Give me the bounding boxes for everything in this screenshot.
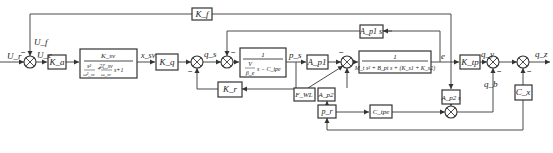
flow-gain-block: K_q <box>156 54 178 70</box>
svg-text:U_e: U_e <box>37 50 52 60</box>
svg-text:s²: s² <box>87 63 91 69</box>
summing-junction-1 <box>24 56 36 68</box>
svg-text:K_q: K_q <box>158 57 175 67</box>
summing-junction-2 <box>191 56 203 68</box>
svg-text:−: − <box>497 67 502 76</box>
svg-text:−: − <box>188 67 193 76</box>
pressure-r-block: p_r <box>318 105 336 118</box>
svg-text:−: − <box>21 48 26 57</box>
svg-text:K_sv: K_sv <box>100 52 116 60</box>
svg-text:−: − <box>527 67 532 76</box>
svg-text:A_p1 s: A_p1 s <box>359 27 382 36</box>
svg-text:e: e <box>441 51 445 61</box>
area-a-s-block: A_p1 s <box>359 25 383 38</box>
comp-block: C_x <box>515 85 532 100</box>
svg-text:ω²_sv: ω²_sv <box>83 72 95 77</box>
summing-junction-3 <box>221 56 233 68</box>
load-force-block: F_WL <box>294 88 315 101</box>
svg-text:C_x: C_x <box>516 87 531 97</box>
svg-text:F_WL: F_WL <box>294 91 313 99</box>
svg-text:A_p1: A_p1 <box>307 57 327 67</box>
pressure-feedback-block: K_r <box>218 82 242 97</box>
svg-text:p_r: p_r <box>320 107 333 116</box>
chamber-block: 1 V β_e s − C_tpe <box>240 48 286 77</box>
area-b-block: A_p2 <box>318 88 335 101</box>
svg-text:A_p2 s: A_p2 s <box>440 94 461 102</box>
svg-text:A_p2: A_p2 <box>318 91 334 99</box>
tp-gain-block: K_tp <box>460 55 480 69</box>
svg-text:1: 1 <box>393 53 397 61</box>
control-block-diagram: − − − − − − K_a K_sv s² ω²_sv + 2ζ_sv ω_… <box>0 0 553 153</box>
svg-text:x_sv: x_sv <box>140 51 156 60</box>
svg-text:U_r: U_r <box>7 51 22 61</box>
svg-text:K_tp: K_tp <box>460 57 479 67</box>
leak-block: C_tpe <box>370 105 392 118</box>
mass-block: 1 M_t s² + B_pt s + (K_s1 + K_s2) <box>354 51 435 73</box>
svg-text:p_s: p_s <box>288 50 302 60</box>
feedback-gain-block: K_f <box>192 8 212 20</box>
svg-text:C_tpe: C_tpe <box>373 108 390 116</box>
svg-text:s+1: s+1 <box>114 67 123 73</box>
summing-junction-4 <box>341 56 353 68</box>
svg-text:s − C_tpe: s − C_tpe <box>257 66 281 72</box>
area-a-block: A_p1 <box>307 55 329 69</box>
svg-text:M_t s² + B_pt s + (K_s1 + K_s2: M_t s² + B_pt s + (K_s1 + K_s2) <box>354 65 435 72</box>
svg-text:ω_sv: ω_sv <box>101 72 112 77</box>
svg-text:K_r: K_r <box>222 84 238 94</box>
svg-text:β_e: β_e <box>245 70 255 76</box>
svg-text:q_y: q_y <box>481 49 494 59</box>
svg-text:K_f: K_f <box>194 9 210 19</box>
svg-text:q_b: q_b <box>484 79 498 89</box>
servo-valve-block: K_sv s² ω²_sv + 2ζ_sv ω_sv s+1 <box>80 49 137 78</box>
svg-text:U_f: U_f <box>34 37 49 47</box>
svg-text:q_z: q_z <box>535 49 548 59</box>
svg-text:q_s: q_s <box>204 49 217 59</box>
area-b-s-block: A_p2 s <box>440 90 461 104</box>
svg-text:1: 1 <box>261 51 265 59</box>
svg-text:−: − <box>231 48 236 57</box>
svg-text:−: − <box>339 48 344 57</box>
summing-junction-7 <box>445 106 457 118</box>
svg-text:2ζ_sv: 2ζ_sv <box>99 63 113 70</box>
